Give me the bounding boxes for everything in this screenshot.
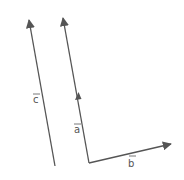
vector-c: c [29, 20, 55, 166]
vector-c-label: c [33, 94, 39, 105]
vector-b-label: b [128, 158, 134, 169]
vector-b: b [89, 144, 171, 169]
vector-a: a [63, 18, 89, 163]
vector-a-label: a [74, 124, 80, 135]
vector-diagram: c a b [0, 0, 184, 180]
